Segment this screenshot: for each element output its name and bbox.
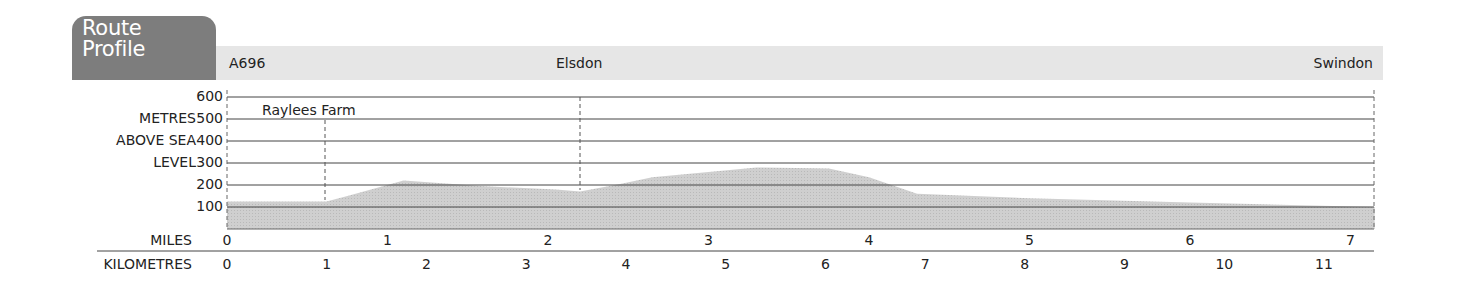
y-tick-500: 500 (196, 110, 223, 126)
km-tick-0: 0 (223, 256, 232, 272)
y-tick-300: 300 (196, 154, 223, 170)
y-tick-400: 400 (196, 132, 223, 148)
km-tick-11: 11 (1315, 256, 1333, 272)
km-tick-5: 5 (721, 256, 730, 272)
y-label-2: ABOVE SEA (116, 132, 196, 148)
km-tick-7: 7 (921, 256, 930, 272)
km-tick-8: 8 (1020, 256, 1029, 272)
y-label-3: LEVEL (153, 154, 196, 170)
miles-label: MILES (150, 232, 192, 248)
km-tick-3: 3 (522, 256, 531, 272)
waypoint-label: Raylees Farm (262, 102, 356, 118)
km-tick-1: 1 (322, 256, 331, 272)
km-tick-2: 2 (422, 256, 431, 272)
km-tick-9: 9 (1120, 256, 1129, 272)
km-label: KILOMETRES (103, 256, 192, 272)
mile-tick-1: 1 (383, 232, 392, 248)
mile-tick-4: 4 (865, 232, 874, 248)
km-tick-4: 4 (621, 256, 630, 272)
mile-tick-7: 7 (1346, 232, 1355, 248)
mile-tick-5: 5 (1025, 232, 1034, 248)
y-tick-200: 200 (196, 176, 223, 192)
y-tick-600: 600 (196, 88, 223, 104)
mile-tick-2: 2 (544, 232, 553, 248)
km-tick-10: 10 (1215, 256, 1233, 272)
mile-tick-6: 6 (1186, 232, 1195, 248)
km-tick-6: 6 (821, 256, 830, 272)
mile-tick-3: 3 (704, 232, 713, 248)
mile-tick-0: 0 (223, 232, 232, 248)
elevation-area (227, 167, 1375, 229)
y-tick-100: 100 (196, 198, 223, 214)
y-label-1: METRES (139, 110, 196, 126)
